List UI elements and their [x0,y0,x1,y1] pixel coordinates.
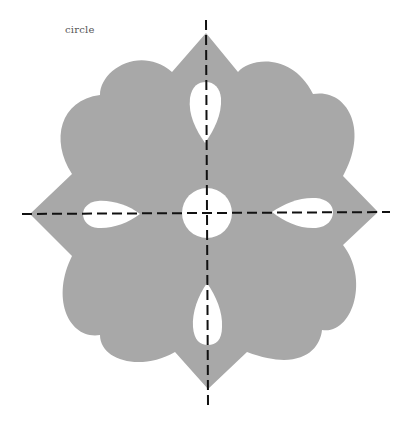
rosette-diagram [0,0,413,421]
